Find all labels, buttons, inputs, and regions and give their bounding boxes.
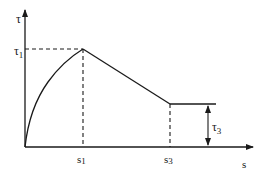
x-axis-label: s (242, 158, 246, 170)
softening-line (83, 49, 170, 104)
s1-label: s1 (77, 153, 86, 166)
y-axis-label: τ (16, 12, 21, 26)
ascending-curve (25, 49, 83, 147)
tau3-label: τ3 (212, 120, 222, 136)
tau1-label: τ1 (14, 44, 23, 60)
bond-slip-diagram: τ τ1 τ3 s1 s3 s (0, 0, 266, 171)
s3-label: s3 (164, 153, 173, 166)
